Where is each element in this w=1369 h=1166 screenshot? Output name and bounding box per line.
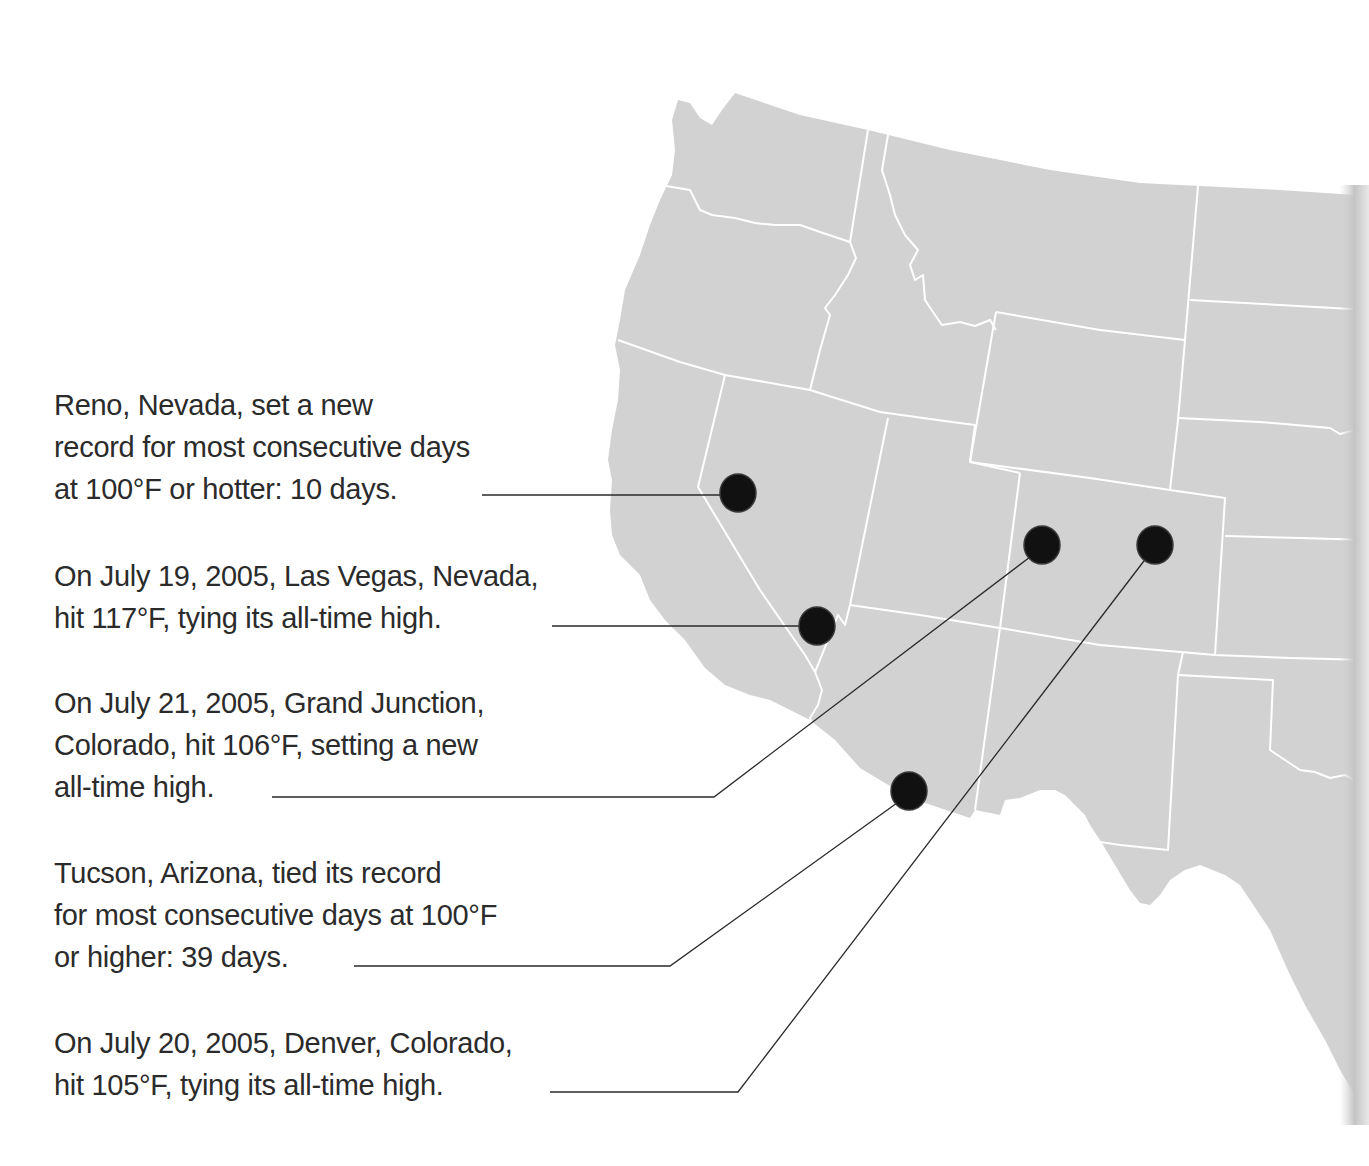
annotation-las-vegas: On July 19, 2005, Las Vegas, Nevada, hit… <box>54 555 538 639</box>
land-mass <box>608 93 1369 1100</box>
annotation-tucson: Tucson, Arizona, tied its record for mos… <box>54 852 497 978</box>
infographic-page: Reno, Nevada, set a new record for most … <box>0 0 1369 1166</box>
marker-las-vegas[interactable] <box>799 607 835 645</box>
marker-tucson[interactable] <box>891 772 927 810</box>
annotation-grand-junction: On July 21, 2005, Grand Junction, Colora… <box>54 682 484 808</box>
annotation-line: for most consecutive days at 100°F <box>54 894 497 936</box>
annotation-line: Colorado, hit 106°F, setting a new <box>54 724 484 766</box>
annotation-denver: On July 20, 2005, Denver, Colorado, hit … <box>54 1022 513 1106</box>
annotation-line: On July 20, 2005, Denver, Colorado, <box>54 1022 513 1064</box>
annotation-line: On July 19, 2005, Las Vegas, Nevada, <box>54 555 538 597</box>
marker-reno[interactable] <box>720 474 756 512</box>
marker-denver[interactable] <box>1137 526 1173 564</box>
annotation-line: Tucson, Arizona, tied its record <box>54 852 497 894</box>
page-spine-shadow <box>1340 185 1369 1125</box>
annotation-line: all-time high. <box>54 766 484 808</box>
annotation-line: at 100°F or hotter: 10 days. <box>54 468 470 510</box>
annotation-line: Reno, Nevada, set a new <box>54 384 470 426</box>
annotation-line: or higher: 39 days. <box>54 936 497 978</box>
annotation-line: On July 21, 2005, Grand Junction, <box>54 682 484 724</box>
annotation-reno: Reno, Nevada, set a new record for most … <box>54 384 470 510</box>
marker-grand-junction[interactable] <box>1024 526 1060 564</box>
annotation-line: record for most consecutive days <box>54 426 470 468</box>
annotation-line: hit 105°F, tying its all-time high. <box>54 1064 513 1106</box>
annotation-line: hit 117°F, tying its all-time high. <box>54 597 538 639</box>
